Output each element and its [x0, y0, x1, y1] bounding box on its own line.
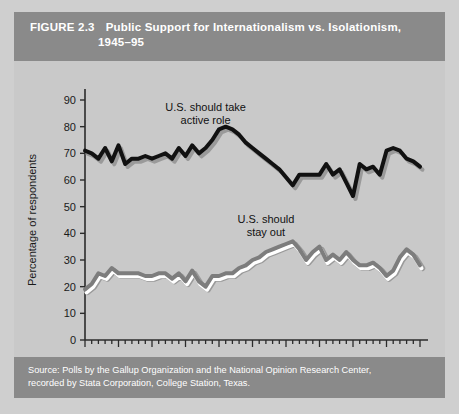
figure-title-line2: 1945–95	[98, 35, 433, 50]
figure-source-band: Source: Polls by the Gallup Organization…	[14, 357, 445, 398]
y-tick-label: 60	[64, 174, 76, 186]
source-line-2: recorded by Stata Corporation, College S…	[28, 377, 435, 390]
figure-title-block: FIGURE 2.3Public Support for Internation…	[30, 20, 433, 50]
source-note: Source: Polls by the Gallup Organization…	[28, 364, 435, 390]
figure-number: FIGURE 2.3	[30, 21, 95, 33]
y-tick-label: 30	[64, 254, 76, 266]
series-stay-out-highlight	[87, 244, 422, 292]
y-axis-title: Percentage of respondents	[26, 153, 38, 286]
y-tick-label: 10	[64, 307, 76, 319]
y-tick-label: 90	[64, 94, 76, 106]
figure-header: FIGURE 2.3Public Support for Internation…	[14, 12, 445, 61]
chart-panel: 0102030405060708090Percentage of respond…	[14, 61, 445, 350]
annotation-active-role: U.S. should takeactive role	[165, 101, 246, 126]
annotation-line-1: U.S. should	[237, 213, 294, 225]
figure-card: FIGURE 2.3Public Support for Internation…	[14, 12, 445, 398]
y-tick-label: 50	[64, 201, 76, 213]
y-tick-label: 0	[70, 334, 76, 346]
y-tick-label: 40	[64, 227, 76, 239]
y-tick-label: 80	[64, 121, 76, 133]
y-tick-label: 20	[64, 281, 76, 293]
series-active-role-shadow	[88, 130, 423, 199]
panel-footer-separator	[14, 350, 445, 357]
source-line-1: Source: Polls by the Gallup Organization…	[28, 364, 435, 377]
line-chart: 0102030405060708090Percentage of respond…	[14, 61, 445, 350]
annotation-line-1: U.S. should take	[165, 101, 246, 113]
annotation-stay-out: U.S. shouldstay out	[237, 213, 294, 238]
annotation-line-2: stay out	[247, 226, 286, 238]
y-tick-label: 70	[64, 147, 76, 159]
annotation-line-2: active role	[181, 114, 231, 126]
figure-title-line1: Public Support for Internationalism vs. …	[106, 21, 402, 33]
